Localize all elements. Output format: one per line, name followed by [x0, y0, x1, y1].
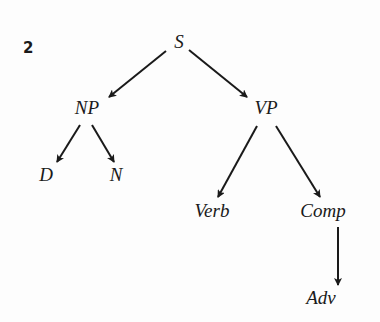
- edge-np-d: [57, 125, 80, 162]
- node-d: D: [39, 165, 53, 184]
- node-adv: Adv: [306, 288, 336, 307]
- edge-np-n: [92, 125, 114, 162]
- tree-edges: [0, 0, 380, 322]
- node-n: N: [110, 165, 123, 184]
- edge-vp-verb: [218, 126, 257, 197]
- node-np: NP: [75, 98, 99, 117]
- node-verb: Verb: [195, 201, 230, 220]
- node-s: S: [174, 32, 184, 51]
- edge-s-np: [109, 51, 166, 97]
- node-comp: Comp: [300, 201, 345, 220]
- edge-s-vp: [189, 50, 247, 97]
- node-vp: VP: [254, 98, 277, 117]
- edge-vp-comp: [276, 126, 320, 197]
- syntax-tree-diagram: 2 S NP VP D N Verb Comp Adv: [0, 0, 380, 322]
